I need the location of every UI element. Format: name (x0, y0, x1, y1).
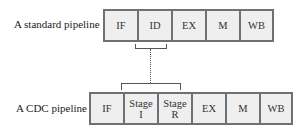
bottom-bracket-right-tick (180, 83, 181, 90)
top-bracket (135, 48, 167, 49)
bottom-bracket (121, 83, 181, 84)
standard-pipeline-label: A standard pipeline (14, 18, 100, 30)
stage-ex: EX (173, 11, 207, 40)
top-bracket-left-tick (135, 44, 136, 49)
cdc-stage-wb: WB (261, 94, 291, 123)
stage-id: ID (139, 11, 173, 40)
stage-if: IF (105, 11, 139, 40)
cdc-stage-i: StageI (125, 94, 159, 123)
cdc-stage-m: M (227, 94, 261, 123)
cdc-stage-if: IF (91, 94, 125, 123)
stage-wb: WB (241, 11, 272, 40)
connector-line (150, 49, 151, 83)
stage-m: M (207, 11, 241, 40)
top-bracket-right-tick (166, 44, 167, 49)
cdc-pipeline-label: A CDC pipeline (16, 102, 87, 114)
bottom-bracket-left-tick (121, 83, 122, 90)
cdc-pipeline: IF StageI StageR EX M WB (89, 92, 293, 125)
standard-pipeline: IF ID EX M WB (103, 9, 274, 42)
cdc-stage-ex: EX (193, 94, 227, 123)
cdc-stage-r: StageR (159, 94, 193, 123)
